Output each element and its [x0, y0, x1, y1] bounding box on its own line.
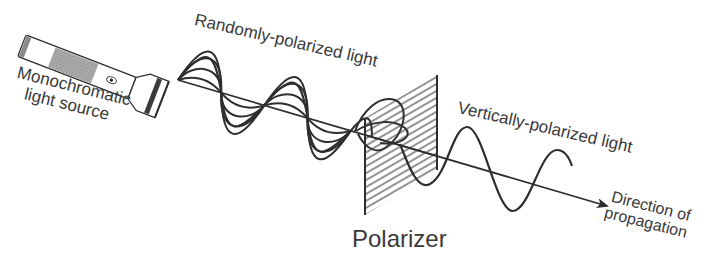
vertical-light-label: Vertically-polarized light	[456, 99, 634, 156]
light-source-label: Monochromatic light source	[11, 63, 133, 128]
direction-label: Direction of propagation	[606, 188, 693, 241]
polarization-diagram: Monochromatic light source Randomly-pola…	[0, 0, 723, 259]
polarizer-label: Polarizer	[352, 227, 447, 251]
random-light-label: Randomly-polarized light	[193, 11, 379, 70]
